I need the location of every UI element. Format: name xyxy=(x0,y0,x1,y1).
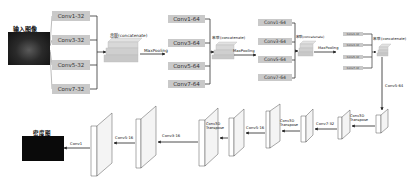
conv-box-stage2-4: Conv7-64 xyxy=(168,80,205,88)
maxpooling-label-1: MaxPooling xyxy=(144,48,168,53)
conv-box-stage2-1: Conv1-64 xyxy=(168,15,205,23)
maxpooling-label-3: MaxPooling xyxy=(318,46,338,51)
conv-box-stage1-4: Conv7-32 xyxy=(52,84,90,94)
maxpooling-label-2: MaxPooling xyxy=(233,48,255,53)
decoder-label-2: Conv7-32 xyxy=(316,121,334,126)
bridge-label: Conv5-64 xyxy=(385,83,403,88)
conv-box-stage3-1: Conv1-64 xyxy=(258,19,292,26)
decoder-label-5: Conv3D Transpose xyxy=(206,122,231,131)
decoder-label-4: Conv5-16 xyxy=(246,125,264,130)
decoder-label-8: Conv1 xyxy=(70,141,82,146)
input-image xyxy=(8,32,50,65)
decoder-label-6: Conv3-16 xyxy=(162,133,180,138)
conv-box-stage1-3: Conv5-32 xyxy=(52,60,90,70)
conv-box-stage3-2: Conv3-64 xyxy=(258,38,292,45)
concat-label-2: 串联(concatenate) xyxy=(212,36,245,41)
concat-label-3: 串联(concatenate) xyxy=(296,35,324,40)
decoder-label-1: Conv3D Transpose xyxy=(350,114,380,123)
conv-box-stage4-3: Conv5-32 xyxy=(343,55,363,59)
conv-box-stage1-1: Conv1-32 xyxy=(52,11,90,21)
conv-box-stage4-1: Conv1-32 xyxy=(343,32,363,36)
conv-box-stage3-4: Conv7-64 xyxy=(258,74,292,81)
conv-box-stage4-2: Conv3-32 xyxy=(343,43,363,47)
conv-box-stage1-2: Conv3-32 xyxy=(52,35,90,45)
conv-box-stage3-3: Conv5-64 xyxy=(258,56,292,63)
decoder-label-3: Conv3D Transpose xyxy=(280,119,302,128)
output-density-map xyxy=(22,136,64,161)
concat-label-1: 串联(concatenate) xyxy=(110,33,147,38)
conv-box-stage2-3: Conv5-64 xyxy=(168,62,205,70)
decoder-label-7: Conv5-16 xyxy=(115,135,133,140)
conv-box-stage4-4: Conv7-32 xyxy=(343,66,363,70)
concat-label-4: 串联(concatenate) xyxy=(373,37,406,42)
conv-box-stage2-2: Conv3-64 xyxy=(168,39,205,47)
